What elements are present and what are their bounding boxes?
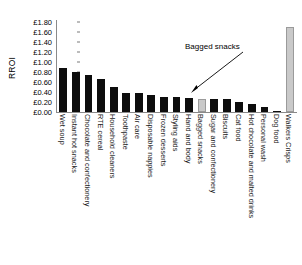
bar	[135, 93, 143, 112]
y-axis-tick-label: £1.00	[33, 58, 52, 67]
bar	[147, 95, 155, 112]
y-axis-tick-label: £1.60	[33, 28, 52, 37]
x-axis-category-label: Bagged snacks	[197, 114, 204, 164]
bar	[248, 104, 256, 113]
bar	[173, 97, 181, 112]
y-axis-tick-labels: £1.80£1.60£1.40£1.20£1.00£0.80£0.60£0.40…	[24, 22, 56, 112]
x-axis-category-label: Air care	[134, 114, 141, 139]
bar	[59, 68, 67, 112]
bar	[273, 111, 281, 113]
x-axis-category-label: Walkers Crisps	[285, 114, 292, 163]
bar	[122, 93, 130, 112]
bar	[210, 99, 218, 113]
bar	[72, 72, 80, 112]
x-axis-category-label: Cat food	[235, 114, 242, 142]
rroi-bar-chart: RROI £1.80£1.60£1.40£1.20£1.00£0.80£0.60…	[0, 0, 302, 265]
x-axis-line	[56, 112, 297, 113]
x-axis-category-label: Household cleaners	[109, 114, 116, 179]
x-axis-category-label: Frozen desserts	[159, 114, 166, 166]
bar	[198, 99, 206, 113]
bar	[85, 75, 93, 112]
y-axis-tick-label: £0.60	[33, 78, 52, 87]
y-axis-tick-label: £1.80	[33, 18, 52, 27]
bar	[110, 87, 118, 112]
bar	[235, 102, 243, 113]
x-axis-category-label: Instant hot snacks	[71, 114, 78, 173]
y-axis-tick-label: £0.20	[33, 98, 52, 107]
y-axis-tick-label: £1.20	[33, 48, 52, 57]
x-axis-category-label: Hot chocolate and malted drinks	[247, 114, 254, 218]
y-axis-tick-label: £1.40	[33, 38, 52, 47]
y-axis-tick-label: £0.00	[33, 108, 52, 117]
bar	[223, 99, 231, 112]
x-axis-category-label: Dog food	[272, 114, 279, 144]
x-axis-category-label: RTE cereal	[96, 114, 103, 150]
bar	[160, 97, 168, 112]
x-axis-category-label: Styling aids	[172, 114, 179, 151]
x-axis-category-label: Chocolate and confectionery	[84, 114, 91, 207]
x-axis-category-label: Personal wash	[260, 114, 267, 162]
annotation-label-bagged-snacks: Bagged snacks	[185, 42, 240, 51]
y-axis-tick-label: £0.40	[33, 88, 52, 97]
x-axis-category-label: Hand and body	[184, 114, 191, 164]
x-axis-category-labels: Wet soupInstant hot snacksChocolate and …	[57, 114, 296, 264]
bar	[185, 98, 193, 113]
x-axis-category-label: Toothpaste	[121, 114, 128, 150]
bar	[261, 107, 269, 112]
x-axis-category-label: Sugar and confectionery	[210, 114, 217, 193]
x-axis-category-label: Biscuits	[222, 114, 229, 139]
bar	[97, 79, 105, 113]
bar-series	[57, 22, 296, 112]
x-axis-category-label: Wet soup	[59, 114, 66, 145]
y-axis-tick-label: £0.80	[33, 68, 52, 77]
x-axis-category-label: Disposable nappies	[147, 114, 154, 178]
bar	[286, 27, 294, 112]
y-axis-title-label: RROI	[7, 57, 17, 79]
y-axis-title: RROI	[2, 38, 22, 98]
